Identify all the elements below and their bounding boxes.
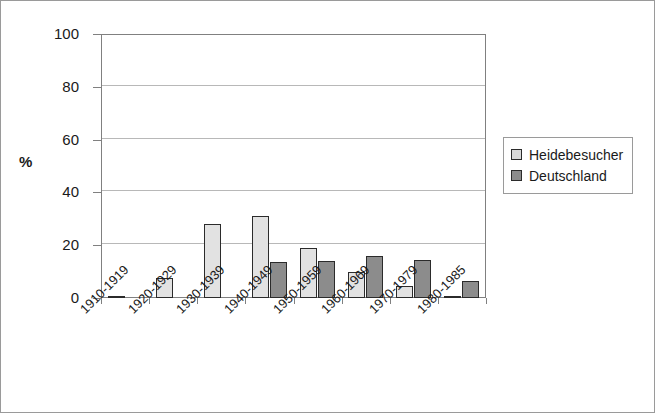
chart-legend: HeidebesucherDeutschland (503, 137, 633, 194)
chart-figure: % 020406080100 1910-19191920-19291930-19… (0, 0, 655, 413)
bar (444, 296, 461, 298)
y-axis-tick-mark (93, 192, 101, 193)
legend-label: Heidebesucher (529, 148, 623, 162)
y-axis-tick-label: 60 (1, 132, 79, 147)
y-axis-tick-label: 40 (1, 184, 79, 199)
legend-item: Deutschland (511, 165, 623, 186)
x-axis-tick-mark (486, 298, 487, 304)
bar-series-layer (101, 34, 486, 298)
y-axis-tick-mark (93, 140, 101, 141)
y-axis-tick-mark (93, 87, 101, 88)
y-axis-tick-label: 100 (1, 26, 79, 41)
y-axis-tick-mark (93, 245, 101, 246)
y-axis-tick-mark (93, 34, 101, 35)
y-axis-title: % (19, 153, 32, 170)
y-axis-tick-label: 0 (1, 290, 79, 305)
bar (108, 296, 125, 298)
legend-swatch-icon (511, 149, 522, 160)
legend-item: Heidebesucher (511, 144, 623, 165)
y-axis-tick-label: 20 (1, 237, 79, 252)
bar (462, 281, 479, 298)
legend-swatch-icon (511, 170, 522, 181)
legend-label: Deutschland (529, 169, 607, 183)
y-axis-tick-label: 80 (1, 79, 79, 94)
